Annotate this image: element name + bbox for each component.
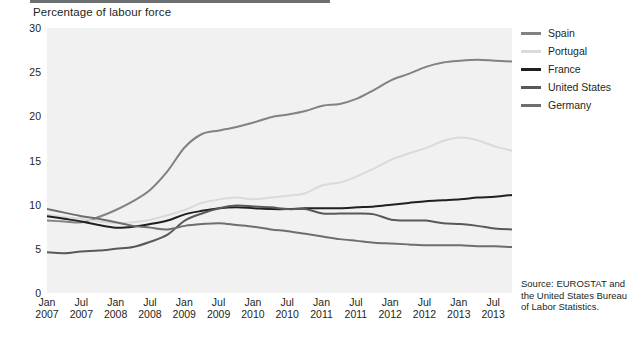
- x-tick-year: 2008: [133, 308, 167, 320]
- legend-label: Spain: [548, 27, 575, 39]
- x-tick-label: Jan2008: [99, 296, 133, 320]
- x-tick-month: Jan: [167, 296, 201, 308]
- x-tick-month: Jul: [407, 296, 441, 308]
- y-tick-label: 20: [29, 110, 41, 122]
- page-title: Percentage of labour force: [33, 6, 171, 18]
- plot-area: [47, 28, 512, 293]
- legend-label: Portugal: [548, 45, 587, 57]
- legend-label: Germany: [548, 99, 591, 111]
- y-tick-label: 25: [29, 66, 41, 78]
- x-tick-year: 2007: [30, 308, 64, 320]
- x-tick-label: Jul2012: [407, 296, 441, 320]
- x-tick-month: Jul: [202, 296, 236, 308]
- x-tick-year: 2011: [305, 308, 339, 320]
- x-tick-label: Jan2013: [442, 296, 476, 320]
- y-tick-label: 10: [29, 199, 41, 211]
- source-line-2: the United States Bureau: [521, 290, 631, 302]
- x-tick-year: 2009: [202, 308, 236, 320]
- x-tick-month: Jan: [305, 296, 339, 308]
- x-tick-year: 2011: [339, 308, 373, 320]
- legend-item: France: [521, 60, 633, 78]
- x-tick-month: Jan: [236, 296, 270, 308]
- line-chart-svg: [47, 28, 512, 293]
- y-tick-label: 15: [29, 155, 41, 167]
- x-tick-year: 2012: [373, 308, 407, 320]
- legend-item: Germany: [521, 96, 633, 114]
- source-line-1: Source: EUROSTAT and: [521, 278, 631, 290]
- x-tick-year: 2013: [442, 308, 476, 320]
- chart-legend: SpainPortugalFranceUnited StatesGermany: [521, 24, 633, 114]
- x-axis-tick-labels: Jan2007Jul2007Jan2008Jul2008Jan2009Jul20…: [47, 296, 512, 336]
- x-tick-year: 2012: [407, 308, 441, 320]
- x-tick-month: Jan: [373, 296, 407, 308]
- chart-figure: Percentage of labour force 051015202530 …: [0, 0, 633, 352]
- source-line-3: of Labor Statistics.: [521, 301, 631, 313]
- x-tick-label: Jul2007: [64, 296, 98, 320]
- x-tick-year: 2007: [64, 308, 98, 320]
- x-tick-month: Jul: [339, 296, 373, 308]
- x-tick-label: Jul2008: [133, 296, 167, 320]
- x-tick-label: Jul2013: [476, 296, 510, 320]
- source-note: Source: EUROSTAT and the United States B…: [521, 278, 631, 313]
- x-tick-label: Jan2010: [236, 296, 270, 320]
- legend-swatch: [521, 50, 541, 53]
- x-tick-label: Jan2011: [305, 296, 339, 320]
- x-tick-month: Jan: [442, 296, 476, 308]
- x-tick-year: 2009: [167, 308, 201, 320]
- x-tick-label: Jan2012: [373, 296, 407, 320]
- x-tick-label: Jan2007: [30, 296, 64, 320]
- header-rule: [30, 0, 330, 3]
- x-tick-label: Jan2009: [167, 296, 201, 320]
- y-tick-label: 30: [29, 22, 41, 34]
- legend-label: United States: [548, 81, 611, 93]
- x-tick-year: 2010: [270, 308, 304, 320]
- legend-label: France: [548, 63, 581, 75]
- y-tick-label: 5: [35, 243, 41, 255]
- legend-item: United States: [521, 78, 633, 96]
- x-tick-year: 2013: [476, 308, 510, 320]
- legend-item: Portugal: [521, 42, 633, 60]
- x-tick-label: Jul2011: [339, 296, 373, 320]
- x-tick-month: Jan: [99, 296, 133, 308]
- legend-swatch: [521, 68, 541, 71]
- x-tick-label: Jul2009: [202, 296, 236, 320]
- x-tick-label: Jul2010: [270, 296, 304, 320]
- y-axis-tick-labels: 051015202530: [0, 28, 44, 293]
- x-tick-month: Jul: [64, 296, 98, 308]
- x-tick-year: 2010: [236, 308, 270, 320]
- legend-swatch: [521, 86, 541, 89]
- x-tick-year: 2008: [99, 308, 133, 320]
- x-tick-month: Jan: [30, 296, 64, 308]
- x-tick-month: Jul: [270, 296, 304, 308]
- legend-swatch: [521, 104, 541, 107]
- x-tick-month: Jul: [476, 296, 510, 308]
- legend-swatch: [521, 32, 541, 35]
- legend-item: Spain: [521, 24, 633, 42]
- x-tick-month: Jul: [133, 296, 167, 308]
